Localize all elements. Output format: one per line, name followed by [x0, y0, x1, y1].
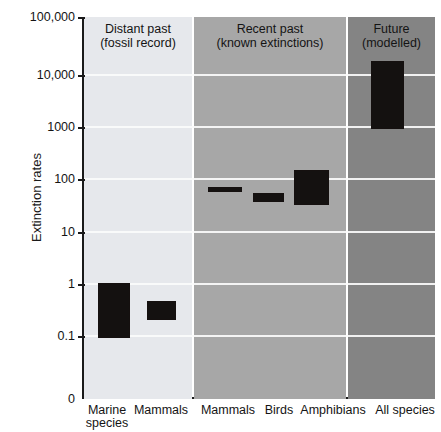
- tick-label: 1: [68, 277, 75, 291]
- tick-label: 1000: [47, 120, 75, 134]
- tick-label: 0.1: [58, 329, 75, 343]
- gridline-10: [84, 231, 435, 233]
- xlabel-birds: Birds: [258, 404, 300, 417]
- tick-label: 0: [68, 392, 75, 406]
- panel-title-line1: Distant past: [84, 22, 192, 36]
- extinction-rates-chart: Extinction rates Distant past (fossil re…: [0, 0, 441, 432]
- gridline-100: [84, 178, 435, 180]
- y-axis-title: Extinction rates: [29, 98, 44, 298]
- tick-mark: [78, 336, 85, 338]
- xlabel-line2: species: [82, 417, 132, 430]
- plot-inner: Distant past (fossil record) Recent past…: [84, 17, 435, 399]
- tick-mark: [78, 232, 85, 234]
- panel-title-future: Future (modelled): [348, 22, 435, 50]
- xlabel-line1: Amphibians: [298, 404, 368, 417]
- databox-birds: [253, 193, 284, 202]
- tick-mark: [78, 284, 85, 286]
- panel-title-line2: (fossil record): [84, 36, 192, 50]
- databox-marine-species: [98, 283, 130, 338]
- databox-mammals-fossil: [147, 301, 176, 320]
- panel-title-line2: (known extinctions): [194, 36, 346, 50]
- tick-label: 100,000: [30, 10, 75, 24]
- tick-mark: [78, 17, 85, 19]
- xlabel-amphibians: Amphibians: [298, 404, 368, 417]
- xlabel-mammals-fossil: Mammals: [132, 404, 190, 417]
- databox-amphibians: [294, 170, 329, 205]
- panel-title-distant-past: Distant past (fossil record): [84, 22, 192, 50]
- xlabel-marine-species: Marine species: [82, 404, 132, 430]
- tick-mark: [78, 75, 85, 77]
- tick-label: 10: [61, 225, 75, 239]
- xlabel-all-species: All species: [372, 404, 438, 417]
- xlabel-line1: Mammals: [198, 404, 258, 417]
- tick-label: 10,000: [37, 68, 75, 82]
- panel-title-line1: Recent past: [194, 22, 346, 36]
- tick-label: 100: [54, 172, 75, 186]
- xlabel-line1: Birds: [258, 404, 300, 417]
- panel-title-recent-past: Recent past (known extinctions): [194, 22, 346, 50]
- gridline-1: [84, 283, 435, 285]
- xlabel-mammals-recent: Mammals: [198, 404, 258, 417]
- xlabel-line1: Mammals: [132, 404, 190, 417]
- databox-mammals-recent: [208, 187, 242, 192]
- panel-title-line1: Future: [348, 22, 435, 36]
- gridline-01: [84, 335, 435, 337]
- databox-all-species: [371, 61, 404, 129]
- plot-area: Distant past (fossil record) Recent past…: [82, 17, 433, 399]
- xlabel-line1: All species: [372, 404, 438, 417]
- panel-title-line2: (modelled): [348, 36, 435, 50]
- tick-mark: [78, 179, 85, 181]
- tick-mark: [78, 127, 85, 129]
